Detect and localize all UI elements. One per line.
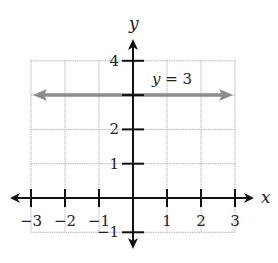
y-tick-label: 1 — [109, 155, 119, 173]
x-tick-label: −2 — [54, 212, 76, 230]
x-axis-label: x — [261, 187, 271, 207]
chart: −3−2−1123−1124xyy = 3 — [0, 0, 278, 263]
labels: −3−2−1123−1124xyy = 3 — [20, 13, 271, 241]
x-tick-label: 1 — [162, 212, 172, 230]
x-tick-label: 3 — [230, 212, 240, 230]
axes — [10, 39, 254, 249]
x-tick-label: 2 — [196, 212, 206, 230]
y-axis-label: y — [128, 13, 139, 33]
y-tick-label: 4 — [109, 52, 119, 70]
y-tick-label: −1 — [97, 223, 119, 241]
y-tick-label: 2 — [109, 120, 119, 138]
x-tick-label: −3 — [20, 212, 42, 230]
coordinate-plane: −3−2−1123−1124xyy = 3 — [0, 0, 278, 263]
equation-label: y = 3 — [151, 70, 192, 88]
